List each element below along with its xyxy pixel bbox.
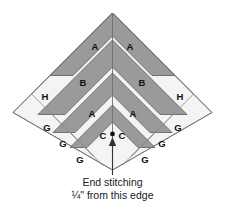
piece-label-B-right: B (139, 77, 146, 88)
piece-label-C-left: C (100, 130, 107, 141)
figure-canvas: A A B B H H A A G G C C G G G G End stit… (0, 0, 225, 210)
piece-label-A-mid-left: A (89, 108, 96, 119)
caption-line-2: ¼" from this edge (72, 189, 154, 201)
piece-label-A-top-right: A (127, 41, 134, 52)
piece-label-A-top-left: A (92, 41, 99, 52)
piece-label-C-right: C (119, 130, 126, 141)
piece-label-G-left-3: G (76, 154, 83, 165)
piece-label-G-right-3: G (141, 154, 148, 165)
stitch-point-dot (110, 132, 115, 137)
caption-line-1: End stitching (82, 176, 142, 188)
piece-label-H-right: H (177, 91, 184, 102)
quilt-diagram-svg: A A B B H H A A G G C C G G G G End stit… (0, 0, 225, 210)
piece-label-H-left: H (42, 91, 49, 102)
piece-label-G-left-1: G (43, 122, 50, 133)
piece-label-G-right-1: G (174, 122, 181, 133)
piece-label-G-right-2: G (158, 138, 165, 149)
caption-block: End stitching ¼" from this edge (72, 176, 154, 201)
piece-label-B-left: B (80, 77, 87, 88)
piece-label-G-left-2: G (59, 138, 66, 149)
piece-label-A-mid-right: A (130, 108, 137, 119)
